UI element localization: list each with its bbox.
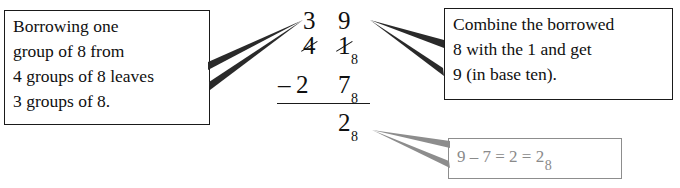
minuend-tens-value: 4 xyxy=(303,33,316,58)
callout-bottom-subscript: 8 xyxy=(545,158,552,173)
callout-left-line-3: 4 groups of 8 leaves xyxy=(13,64,202,89)
callout-right-line-3: 9 (in base ten). xyxy=(453,62,665,87)
borrow-digit-ones: 9 xyxy=(338,8,351,33)
callout-box-right: Combine the borrowed 8 with the 1 and ge… xyxy=(444,8,673,100)
minuend-digit-tens-struck: 4 xyxy=(303,33,316,58)
callout-left-line-2: group of 8 from xyxy=(13,39,202,64)
minus-operator: – xyxy=(278,72,291,97)
figure-canvas: Borrowing one group of 8 from 4 groups o… xyxy=(0,0,680,188)
callout-box-bottom: 9 – 7 = 2 = 28 xyxy=(448,138,622,179)
callout-right-line-1: Combine the borrowed xyxy=(453,12,665,37)
answer-value: 2 xyxy=(338,109,351,136)
answer-digit: 28 xyxy=(338,110,358,135)
callout-left-line-4: 3 groups of 8. xyxy=(13,89,202,114)
callout-bottom-text: 9 – 7 = 2 = 2 xyxy=(457,147,544,166)
callout-right-line-2: 8 with the 1 and get xyxy=(453,37,665,62)
answer-base-subscript: 8 xyxy=(351,129,358,144)
borrow-digit-tens: 3 xyxy=(303,8,316,33)
subtraction-rule xyxy=(277,103,370,104)
subtrahend-ones-value: 7 xyxy=(338,71,351,98)
subtrahend-digit-ones: 78 xyxy=(338,72,358,97)
callout-box-left: Borrowing one group of 8 from 4 groups o… xyxy=(4,10,210,125)
minuend-ones-value: 1 xyxy=(338,33,351,58)
callout-left-line-1: Borrowing one xyxy=(13,14,202,39)
minuend-digit-ones-struck: 18 xyxy=(338,33,358,58)
minuend-base-subscript: 8 xyxy=(351,52,358,67)
subtraction-work: 3 9 4 18 – 2 78 28 xyxy=(262,0,402,150)
subtrahend-digit-tens: 2 xyxy=(296,72,309,97)
